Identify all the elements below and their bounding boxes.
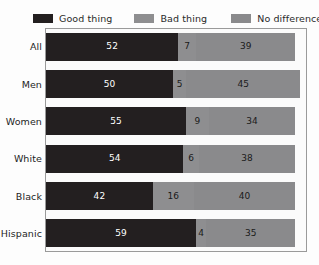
bar-value-label: 38	[241, 154, 253, 163]
bar-track: 50545	[46, 70, 300, 98]
bar-segment[interactable]: 7	[178, 33, 196, 61]
category-label: Women	[0, 116, 44, 127]
category-label: Hispanic	[0, 228, 44, 239]
bar-value-label: 34	[246, 117, 258, 126]
category-label: Men	[0, 79, 44, 90]
bar-value-label: 52	[106, 42, 118, 51]
bar-segment[interactable]: 35	[206, 219, 295, 247]
bar-segment[interactable]: 40	[194, 182, 296, 210]
bar-segment[interactable]: 4	[196, 219, 206, 247]
bar-value-label: 6	[188, 154, 194, 163]
bar-track: 55934	[46, 107, 295, 135]
bar-track: 421640	[46, 182, 295, 210]
bar-segment[interactable]: 5	[173, 70, 186, 98]
bar-value-label: 16	[167, 192, 179, 201]
legend-label: Good thing	[59, 13, 112, 24]
bar-segment[interactable]: 6	[183, 145, 198, 173]
bar-value-label: 50	[104, 80, 116, 89]
bar-row: Black421640	[0, 182, 319, 210]
bar-segment[interactable]: 38	[199, 145, 296, 173]
bar-value-label: 7	[184, 42, 190, 51]
bar-segment[interactable]: 45	[186, 70, 301, 98]
bar-track: 54638	[46, 145, 295, 173]
bar-row: Women55934	[0, 107, 319, 135]
category-label: All	[0, 41, 44, 52]
stacked-bar-chart: Good thingBad thingNo difference All5273…	[0, 0, 319, 265]
bar-value-label: 59	[115, 229, 127, 238]
bar-value-label: 55	[110, 117, 122, 126]
bar-row: Hispanic59435	[0, 219, 319, 247]
bar-segment[interactable]: 59	[46, 219, 196, 247]
bar-segment[interactable]: 52	[46, 33, 178, 61]
bar-segment[interactable]: 34	[209, 107, 296, 135]
bar-segment[interactable]: 55	[46, 107, 186, 135]
bar-value-label: 40	[239, 192, 251, 201]
bar-segment[interactable]: 50	[46, 70, 173, 98]
bar-value-label: 5	[177, 80, 183, 89]
bar-segment[interactable]: 42	[46, 182, 153, 210]
bar-value-label: 35	[245, 229, 257, 238]
legend-swatch-icon	[134, 14, 154, 23]
category-label: Black	[0, 191, 44, 202]
bar-row: All52739	[0, 33, 319, 61]
legend-item[interactable]: Good thing	[33, 8, 112, 28]
bar-value-label: 42	[94, 192, 106, 201]
bar-value-label: 45	[237, 80, 249, 89]
bar-value-label: 9	[195, 117, 201, 126]
bar-track: 52739	[46, 33, 295, 61]
legend-label: No difference	[257, 13, 319, 24]
legend-label: Bad thing	[160, 13, 207, 24]
bar-rows: All52739Men50545Women55934White54638Blac…	[0, 28, 319, 252]
bar-value-label: 54	[109, 154, 121, 163]
legend-swatch-icon	[231, 14, 251, 23]
bar-segment[interactable]: 54	[46, 145, 183, 173]
category-label: White	[0, 153, 44, 164]
bar-segment[interactable]: 9	[186, 107, 209, 135]
legend-swatch-icon	[33, 14, 53, 23]
bar-segment[interactable]: 16	[153, 182, 194, 210]
bar-value-label: 39	[240, 42, 252, 51]
bar-segment[interactable]: 39	[196, 33, 295, 61]
bar-row: Men50545	[0, 70, 319, 98]
legend-item[interactable]: Bad thing	[134, 8, 207, 28]
bar-value-label: 4	[198, 229, 204, 238]
bar-track: 59435	[46, 219, 295, 247]
bar-row: White54638	[0, 145, 319, 173]
legend-item[interactable]: No difference	[231, 8, 319, 28]
chart-legend: Good thingBad thingNo difference	[0, 8, 319, 28]
